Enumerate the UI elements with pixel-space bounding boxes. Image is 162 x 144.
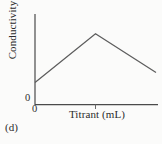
x-axis-origin-tick-label: 0	[32, 104, 37, 115]
plot-area	[0, 0, 162, 144]
y-axis-origin-tick-label: 0	[25, 93, 30, 104]
conductivity-curve	[35, 34, 156, 83]
titration-conductivity-figure: Conductivity Titrant (mL) 0 0 (d)	[0, 0, 162, 144]
x-axis-label: Titrant (mL)	[36, 108, 158, 120]
y-axis-label: Conductivity	[6, 0, 18, 66]
panel-label: (d)	[5, 122, 18, 133]
